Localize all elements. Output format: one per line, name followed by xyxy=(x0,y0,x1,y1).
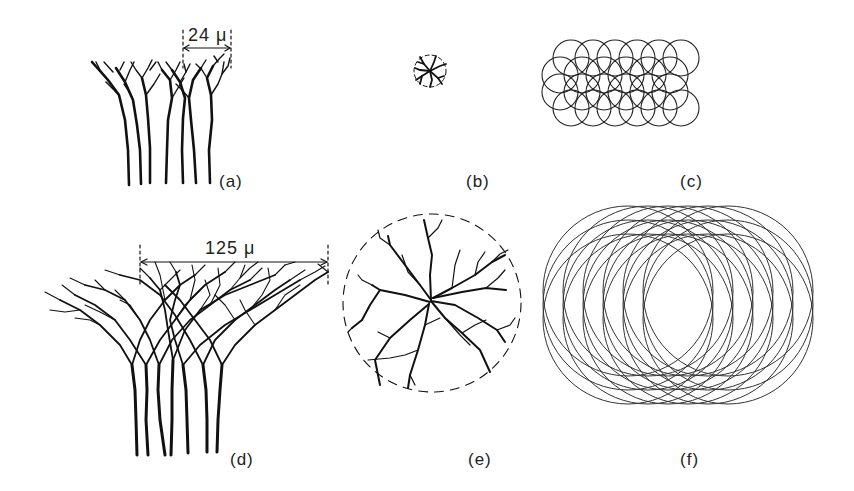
circle-outline xyxy=(652,74,688,110)
circle-outline xyxy=(641,90,677,126)
panel-label-a: (a) xyxy=(219,172,243,192)
panel-label-f: (f) xyxy=(680,450,699,470)
circle-outline xyxy=(652,57,688,93)
circle-outline xyxy=(553,40,589,76)
circle-outline xyxy=(542,57,578,93)
circle-outline xyxy=(663,90,699,126)
circle-outline xyxy=(663,40,699,76)
panel-c-circle-grid xyxy=(542,40,699,126)
circle-outline xyxy=(608,74,644,110)
panel-label-b: (b) xyxy=(466,172,490,192)
panel-b-topview xyxy=(414,55,446,87)
circle-outline xyxy=(619,40,655,76)
circle-outline xyxy=(575,40,611,76)
circle-outline xyxy=(553,90,589,126)
panel-a-trees xyxy=(92,30,231,185)
circle-outline xyxy=(564,57,600,93)
scale-label-d: 125 μ xyxy=(205,238,255,259)
circle-outline xyxy=(597,40,633,76)
panel-label-d: (d) xyxy=(230,450,254,470)
panel-label-c: (c) xyxy=(680,172,703,192)
panel-label-e: (e) xyxy=(468,450,492,470)
scale-label-a: 24 μ xyxy=(188,25,227,46)
figure-canvas xyxy=(0,0,854,491)
circle-outline xyxy=(630,57,666,93)
circle-outline xyxy=(641,40,677,76)
panel-d-trees xyxy=(45,245,328,455)
circle-outline xyxy=(586,57,622,93)
circle-outline xyxy=(542,74,578,110)
circle-outline xyxy=(575,90,611,126)
panel-e-topview xyxy=(343,214,521,392)
circle-outline xyxy=(619,90,655,126)
circle-outline xyxy=(597,90,633,126)
panel-f-circle-field xyxy=(543,206,813,404)
circle-outline xyxy=(608,57,644,93)
circle-outline xyxy=(630,74,666,110)
circle-outline xyxy=(564,74,600,110)
circle-outline xyxy=(586,74,622,110)
